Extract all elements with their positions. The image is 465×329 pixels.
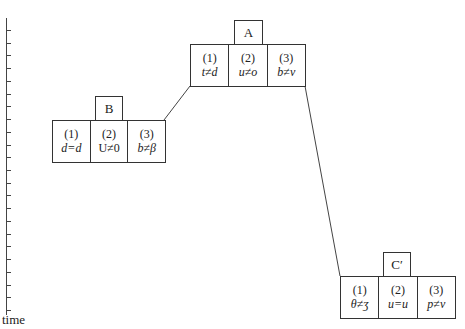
edge-a-to-c xyxy=(305,86,340,276)
node-a-label: A xyxy=(234,20,263,45)
node-c-label: C′ xyxy=(383,252,411,277)
cell-condition: b≠β xyxy=(128,141,165,155)
cell-number: (2) xyxy=(91,127,128,141)
node-b-cell-1: (1) d=d xyxy=(53,121,90,162)
cell-condition: p≠v xyxy=(418,297,455,311)
cell-number: (1) xyxy=(53,127,90,141)
node-b-cells: (1) d=d (2) U≠0 (3) b≠β xyxy=(52,120,166,163)
cell-number: (3) xyxy=(268,51,305,65)
cell-number: (1) xyxy=(191,51,228,65)
node-c-cell-1: (1) θ≠ʒ xyxy=(341,277,378,318)
cell-condition: t≠d xyxy=(191,65,228,79)
edge-b-to-a xyxy=(164,86,190,120)
node-c-cell-3: (3) p≠v xyxy=(417,277,455,318)
cell-number: (3) xyxy=(418,283,455,297)
cell-condition: θ≠ʒ xyxy=(341,297,378,311)
node-b-cell-3: (3) b≠β xyxy=(127,121,165,162)
node-a-cells: (1) t≠d (2) u≠o (3) b≠v xyxy=(190,44,306,87)
node-c-cell-2: (2) u=u xyxy=(378,277,416,318)
cell-condition: U≠0 xyxy=(91,141,128,155)
node-b-cell-2: (2) U≠0 xyxy=(90,121,128,162)
node-c-cells: (1) θ≠ʒ (2) u=u (3) p≠v xyxy=(340,276,456,319)
cell-condition: b≠v xyxy=(268,65,305,79)
cell-condition: d=d xyxy=(53,141,90,155)
node-b-label: B xyxy=(95,96,123,121)
cell-number: (3) xyxy=(128,127,165,141)
node-a-cell-3: (3) b≠v xyxy=(267,45,305,86)
node-a-cell-1: (1) t≠d xyxy=(191,45,228,86)
cell-number: (2) xyxy=(379,283,416,297)
cell-condition: u≠o xyxy=(229,65,266,79)
cell-number: (2) xyxy=(229,51,266,65)
node-a-cell-2: (2) u≠o xyxy=(228,45,266,86)
cell-number: (1) xyxy=(341,283,378,297)
cell-condition: u=u xyxy=(379,297,416,311)
